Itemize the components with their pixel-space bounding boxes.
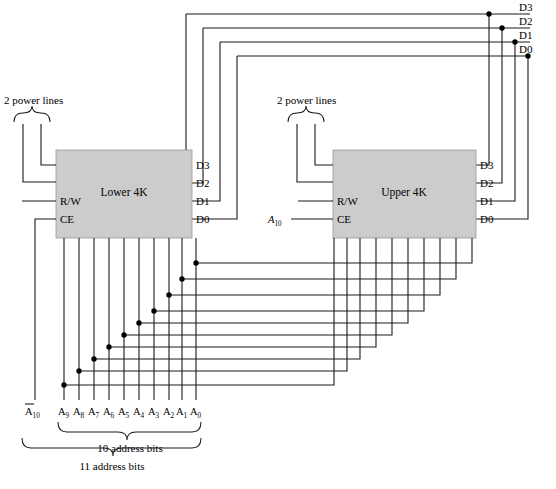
address-label-a7: A7 [88,406,100,420]
staircase-dot-a6 [106,344,111,349]
junction-dot-d0 [525,53,530,58]
address-bit-labels: A9 A8 A7 A6 A5 A4 A3 A2 A1 A0 [58,406,202,420]
staircase-wire-a2 [169,238,440,295]
staircase-dot-a9 [61,382,66,387]
a10-inverted-text: A10 [25,406,40,420]
staircase-wire-a1 [182,238,456,279]
address-label-a9: A9 [58,406,70,420]
chip-upper-4k[interactable]: Upper 4K R/W CE D3 D2 D1 D0 [333,150,494,238]
staircase-dot-a8 [76,368,81,373]
inverted-address-select-label: A10 [25,404,40,420]
address-brace-group: 10 address bits 11 address bits [22,422,201,472]
lower-pin-label-d1: D1 [196,195,209,207]
upper-pin-label-ce: CE [337,213,351,225]
staircase-dot-a0 [193,260,198,265]
address-label-a2: A2 [163,406,175,420]
lower-pin-label-d0: D0 [196,213,210,225]
lower-pin-label-ce: CE [60,213,74,225]
address-label-a6: A6 [103,406,115,420]
address-label-a5: A5 [118,406,130,420]
upper-pin-label-d3: D3 [480,159,494,171]
upper-d3-wire [476,14,489,165]
staircase-wire-a5 [124,238,392,335]
lower-pin-label-d3: D3 [196,159,210,171]
chip-lower-4k-title: Lower 4K [101,186,149,198]
staircase-wire-a4 [139,238,408,323]
staircase-dot-a5 [121,332,126,337]
data-bus-group: D3 D2 D1 D0 [186,1,533,56]
bus-label-d1: D1 [519,29,532,41]
upper-ce-source-sub: 10 [274,220,282,228]
upper-power-label: 2 power lines [277,94,336,106]
upper-power-brace [288,106,324,122]
lower-ce-wire [35,219,56,400]
junction-dot-d3 [486,11,491,16]
brace-10-address-bits [58,422,201,440]
lower-power-label: 2 power lines [4,94,63,106]
brace-11-address-bits-label: 11 address bits [80,460,145,472]
chip-lower-4k[interactable]: Lower 4K R/W CE D3 D2 D1 D0 [56,150,210,238]
staircase-wire-a8 [79,238,347,371]
bus-label-d2: D2 [519,15,532,27]
junction-dot-d2 [499,25,504,30]
address-label-a4: A4 [133,406,145,420]
staircase-wire-a7 [94,238,360,359]
upper-power-group: 2 power lines [277,94,336,182]
address-label-a0: A0 [190,406,202,420]
staircase-dot-a1 [179,276,184,281]
staircase-dot-a7 [91,356,96,361]
upper-pin-label-rw: R/W [337,195,358,207]
upper-pin-label-d2: D2 [480,177,493,189]
upper-power-wire-2 [315,124,333,165]
address-label-a1: A1 [176,406,188,420]
chip-upper-4k-title: Upper 4K [381,186,427,199]
staircase-dot-a3 [151,308,156,313]
lower-power-wire-2 [41,124,56,165]
address-staircase-group [61,238,472,388]
upper-pin-label-d0: D0 [480,213,494,225]
staircase-dot-a2 [166,292,171,297]
lower-power-wire-1 [23,124,56,182]
lower-pin-label-rw: R/W [60,195,81,207]
address-label-a8: A8 [73,406,85,420]
staircase-wire-a6 [109,238,376,347]
bus-label-d0: D0 [519,43,533,55]
address-bit-verticals [64,238,196,400]
upper-ce-source-label: A10 [267,214,282,228]
lower-pin-label-d2: D2 [196,177,209,189]
staircase-wire-a3 [154,238,424,311]
lower-data-routing [186,14,237,219]
lower-d3-wire [186,14,192,165]
upper-pin-label-d1: D1 [480,195,493,207]
lower-power-group: 2 power lines [4,94,63,182]
lower-power-brace [14,106,50,122]
bus-label-d3: D3 [519,1,533,13]
address-label-a3: A3 [148,406,160,420]
staircase-dot-a4 [136,320,141,325]
memory-expansion-diagram: D3 D2 D1 D0 Lower 4K R/W CE D3 D2 D1 D0 [0,0,556,489]
junction-dot-d1 [512,39,517,44]
